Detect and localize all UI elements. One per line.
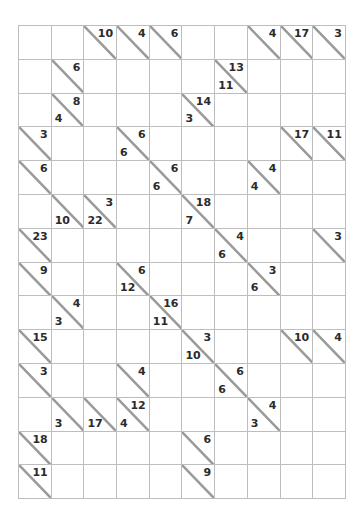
entry-cell[interactable] [313, 161, 346, 195]
clue-cell: 3 [19, 127, 52, 161]
entry-cell[interactable] [247, 228, 280, 262]
entry-cell[interactable] [313, 93, 346, 127]
entry-cell[interactable] [149, 127, 182, 161]
entry-cell[interactable] [247, 194, 280, 228]
entry-cell[interactable] [117, 194, 150, 228]
entry-cell[interactable] [280, 397, 313, 431]
entry-cell[interactable] [247, 93, 280, 127]
entry-cell[interactable] [149, 59, 182, 93]
entry-cell[interactable] [247, 59, 280, 93]
entry-cell[interactable] [117, 330, 150, 364]
entry-cell[interactable] [182, 262, 215, 296]
clue-cell: 9 [19, 262, 52, 296]
down-clue-value: 6 [171, 27, 179, 40]
entry-cell[interactable] [117, 465, 150, 499]
entry-cell[interactable] [280, 59, 313, 93]
entry-cell[interactable] [149, 330, 182, 364]
entry-cell[interactable] [313, 262, 346, 296]
clue-cell: 143 [182, 93, 215, 127]
blocked-cell [19, 397, 52, 431]
clue-cell: 310 [182, 330, 215, 364]
entry-cell[interactable] [280, 93, 313, 127]
entry-cell[interactable] [117, 161, 150, 195]
clue-cell: 9 [182, 465, 215, 499]
entry-cell[interactable] [280, 465, 313, 499]
entry-cell[interactable] [215, 330, 248, 364]
entry-cell[interactable] [149, 363, 182, 397]
entry-cell[interactable] [84, 363, 117, 397]
entry-cell[interactable] [313, 59, 346, 93]
entry-cell[interactable] [182, 127, 215, 161]
entry-cell[interactable] [84, 465, 117, 499]
down-clue-value: 17 [294, 27, 309, 40]
entry-cell[interactable] [313, 194, 346, 228]
entry-cell[interactable] [182, 228, 215, 262]
entry-cell[interactable] [247, 431, 280, 465]
entry-cell[interactable] [117, 296, 150, 330]
entry-cell[interactable] [84, 59, 117, 93]
entry-cell[interactable] [280, 228, 313, 262]
entry-cell[interactable] [313, 296, 346, 330]
entry-cell[interactable] [182, 161, 215, 195]
entry-cell[interactable] [215, 397, 248, 431]
clue-cell: 10 [51, 194, 84, 228]
entry-cell[interactable] [215, 465, 248, 499]
entry-cell[interactable] [215, 194, 248, 228]
entry-cell[interactable] [51, 330, 84, 364]
entry-cell[interactable] [247, 363, 280, 397]
entry-cell[interactable] [51, 363, 84, 397]
entry-cell[interactable] [215, 431, 248, 465]
entry-cell[interactable] [280, 194, 313, 228]
entry-cell[interactable] [215, 262, 248, 296]
entry-cell[interactable] [51, 127, 84, 161]
entry-cell[interactable] [84, 161, 117, 195]
entry-cell[interactable] [182, 363, 215, 397]
entry-cell[interactable] [117, 59, 150, 93]
clue-cell: 187 [182, 194, 215, 228]
entry-cell[interactable] [84, 228, 117, 262]
entry-cell[interactable] [51, 431, 84, 465]
entry-cell[interactable] [247, 330, 280, 364]
entry-cell[interactable] [313, 397, 346, 431]
entry-cell[interactable] [149, 397, 182, 431]
entry-cell[interactable] [280, 161, 313, 195]
entry-cell[interactable] [247, 296, 280, 330]
entry-cell[interactable] [149, 262, 182, 296]
entry-cell[interactable] [84, 127, 117, 161]
down-clue-value: 4 [334, 331, 342, 344]
entry-cell[interactable] [117, 228, 150, 262]
entry-cell[interactable] [84, 262, 117, 296]
entry-cell[interactable] [313, 363, 346, 397]
entry-cell[interactable] [280, 431, 313, 465]
entry-cell[interactable] [117, 93, 150, 127]
entry-cell[interactable] [117, 431, 150, 465]
entry-cell[interactable] [84, 93, 117, 127]
clue-cell: 4 [117, 363, 150, 397]
entry-cell[interactable] [280, 262, 313, 296]
entry-cell[interactable] [84, 330, 117, 364]
entry-cell[interactable] [149, 93, 182, 127]
entry-cell[interactable] [182, 397, 215, 431]
entry-cell[interactable] [215, 296, 248, 330]
entry-cell[interactable] [215, 93, 248, 127]
entry-cell[interactable] [51, 228, 84, 262]
across-clue-value: 10 [185, 349, 200, 362]
clue-cell: 15 [19, 330, 52, 364]
entry-cell[interactable] [247, 465, 280, 499]
entry-cell[interactable] [182, 296, 215, 330]
entry-cell[interactable] [51, 161, 84, 195]
entry-cell[interactable] [149, 228, 182, 262]
entry-cell[interactable] [149, 194, 182, 228]
entry-cell[interactable] [215, 127, 248, 161]
entry-cell[interactable] [215, 161, 248, 195]
clue-cell: 6 [182, 431, 215, 465]
grid-row: 61311 [19, 59, 346, 93]
entry-cell[interactable] [51, 465, 84, 499]
entry-cell[interactable] [149, 431, 182, 465]
entry-cell[interactable] [280, 296, 313, 330]
down-clue-value: 9 [40, 264, 48, 277]
entry-cell[interactable] [51, 262, 84, 296]
entry-cell[interactable] [84, 296, 117, 330]
entry-cell[interactable] [84, 431, 117, 465]
entry-cell[interactable] [280, 363, 313, 397]
